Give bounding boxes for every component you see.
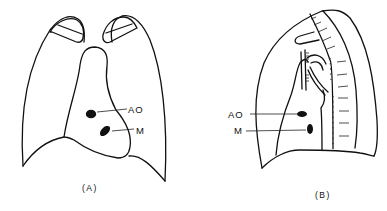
clavicle-right — [50, 19, 84, 43]
mitral-marker — [98, 124, 112, 138]
aorta-marker-lateral — [297, 111, 307, 117]
mitral-leader — [112, 129, 134, 131]
panel-a: AO M (A) — [22, 16, 166, 193]
aorta-marker — [86, 110, 96, 119]
scapula — [295, 32, 319, 44]
mitral-marker-lateral — [307, 124, 313, 134]
label-ao-b: AO — [228, 109, 244, 120]
caption-a: (A) — [82, 183, 98, 193]
diaphragm-right — [23, 137, 64, 166]
label-m-b: M — [234, 125, 243, 136]
thorax-outline-frontal — [22, 16, 166, 181]
clavicle-left — [103, 17, 137, 43]
clavicle-right-band — [58, 25, 82, 34]
diaphragm-lateral — [262, 150, 374, 168]
aorta-leader — [97, 109, 127, 112]
panel-b: AO M (B) — [228, 10, 377, 200]
thorax-outline-lateral — [256, 10, 377, 168]
heart-silhouette-lateral — [276, 60, 324, 156]
chest-diagram: AO M (A) — [0, 0, 387, 211]
great-vessels — [301, 50, 328, 95]
diaphragm-left — [129, 156, 165, 181]
mitral-leader-lateral — [246, 130, 306, 131]
rib-ticks — [311, 17, 349, 136]
label-m-a: M — [136, 125, 145, 136]
label-ao-a: AO — [128, 104, 144, 115]
caption-b: (B) — [315, 190, 331, 200]
heart-silhouette — [64, 47, 130, 158]
clavicle-left-band — [106, 24, 132, 33]
posterior-wall-inner — [323, 11, 357, 148]
